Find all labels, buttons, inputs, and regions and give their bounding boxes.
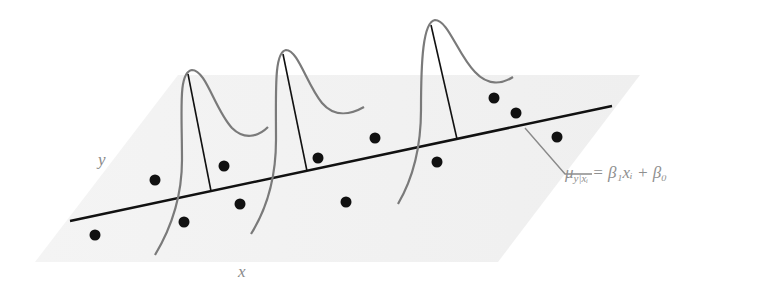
data-point [90,230,101,241]
data-point [235,199,246,210]
regression-diagram [0,0,784,284]
equation-subscript: y|xᵢ [574,172,589,184]
xy-plane [35,75,640,262]
equation-rhs: = β₁xᵢ + β₀ [588,163,667,182]
y-axis-label: y [98,150,106,170]
data-point [552,132,563,143]
x-axis-label: x [238,262,246,282]
regression-equation: μy|xᵢ = β₁xᵢ + β₀ [565,163,667,184]
equation-mu: μ [565,163,574,182]
data-point [313,153,324,164]
data-point [511,108,522,119]
data-point [341,197,352,208]
data-point [150,175,161,186]
data-point [489,93,500,104]
data-point [219,161,230,172]
data-point [370,133,381,144]
data-point [432,157,443,168]
data-point [179,217,190,228]
